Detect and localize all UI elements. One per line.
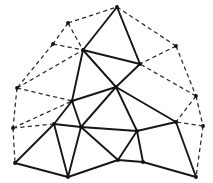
solid-edge-v-mid-lower-left-to-v-mid-lower-right	[81, 127, 137, 131]
dashed-edge-v-outer-right-low-to-v-bottom-right	[196, 126, 203, 177]
solid-edge-v-upper-left-to-v-upper-right	[83, 50, 140, 64]
dashed-edge-v-outer-left-low-to-v-left-lower	[13, 124, 54, 128]
dashed-edge-v-outer-left-mid-to-v-outer-left-low	[13, 88, 17, 128]
vertex-v-outer-left-mid	[15, 86, 19, 90]
vertex-v-mid-lower-right	[135, 129, 139, 133]
vertex-v-outer-left-low	[11, 126, 15, 130]
vertex-v-upper-left	[81, 48, 85, 52]
dashed-edge-v-outer-right-mid-to-v-upper-right	[140, 64, 196, 96]
dashed-edge-v-outer-left-low-to-v-bottom-left	[13, 128, 15, 163]
vertex-v-mid-lower-left	[79, 125, 83, 129]
vertex-v-mid-left	[70, 99, 74, 103]
vertex-v-bottom-left	[13, 161, 17, 165]
solid-edge-layer	[15, 7, 196, 177]
vertex-v-right-lower	[174, 120, 178, 124]
vertex-layer	[11, 5, 205, 179]
vertex-v-bottom-center	[116, 158, 120, 162]
vertex-v-outer-top-left	[66, 21, 70, 25]
solid-edge-v-apex-top-to-v-upper-left	[83, 7, 117, 50]
solid-edge-v-left-lower-to-v-mid-lower-left	[54, 124, 81, 127]
solid-edge-v-mid-lower-right-to-v-bottom-right-mid	[137, 131, 143, 162]
vertex-v-upper-right	[138, 62, 142, 66]
vertex-v-bottom-right-mid	[141, 160, 145, 164]
dashed-edge-v-outer-left-upper-to-v-upper-left	[53, 44, 83, 50]
solid-edge-v-apex-top-to-v-upper-right	[117, 7, 140, 64]
solid-edge-v-bottom-center-to-v-mid-lower-right	[118, 131, 137, 160]
solid-edge-v-left-lower-to-v-bottom-left-mid	[54, 124, 68, 177]
dashed-edge-v-outer-right-mid-to-v-outer-right-low	[196, 96, 203, 126]
dashed-edge-v-outer-left-upper-to-v-outer-left-mid	[17, 44, 53, 88]
solid-edge-v-bottom-left-to-v-bottom-left-mid	[15, 163, 68, 177]
dashed-edge-v-outer-right-mid-to-v-right-lower	[176, 96, 196, 122]
dashed-edge-v-outer-left-low-to-v-mid-left	[13, 101, 72, 128]
vertex-v-bottom-left-mid	[66, 175, 70, 179]
solid-edge-v-upper-left-to-v-center	[83, 50, 116, 87]
dashed-edge-v-outer-left-mid-to-v-mid-left	[17, 88, 72, 101]
vertex-v-apex-top	[115, 5, 119, 9]
mesh-diagram	[0, 0, 213, 183]
solid-edge-v-bottom-left-mid-to-v-bottom-center	[68, 160, 118, 177]
solid-edge-v-mid-lower-right-to-v-right-lower	[137, 122, 176, 131]
solid-edge-v-left-lower-to-v-bottom-left	[15, 124, 54, 163]
vertex-v-outer-top-right	[174, 44, 178, 48]
vertex-v-outer-left-upper	[51, 42, 55, 46]
vertex-v-bottom-right	[194, 175, 198, 179]
vertex-v-left-lower	[52, 122, 56, 126]
solid-edge-v-right-lower-to-v-bottom-right	[176, 122, 196, 177]
solid-edge-v-upper-left-to-v-mid-left	[72, 50, 83, 101]
solid-edge-v-mid-lower-left-to-v-bottom-center	[81, 127, 118, 160]
dashed-edge-v-outer-top-left-to-v-upper-left	[68, 23, 83, 50]
dashed-edge-v-outer-left-mid-to-v-upper-left	[17, 50, 83, 88]
dashed-edge-v-outer-top-left-to-v-outer-left-upper	[53, 23, 68, 44]
dashed-edge-v-outer-top-right-to-v-outer-right-mid	[176, 46, 196, 96]
solid-edge-v-bottom-center-to-v-bottom-right-mid	[118, 160, 143, 162]
solid-edge-v-bottom-right-mid-to-v-bottom-right	[143, 162, 196, 177]
solid-edge-v-mid-left-to-v-mid-lower-left	[72, 101, 81, 127]
solid-edge-v-upper-right-to-v-center	[116, 64, 140, 87]
dashed-edge-v-outer-top-right-to-v-upper-right	[140, 46, 176, 64]
vertex-v-outer-right-mid	[194, 94, 198, 98]
mesh-canvas	[0, 0, 213, 183]
vertex-v-center	[114, 85, 118, 89]
solid-edge-v-mid-lower-left-to-v-bottom-left-mid	[68, 127, 81, 177]
dashed-edge-v-outer-right-low-to-v-right-lower	[176, 122, 203, 126]
vertex-v-outer-right-low	[201, 124, 205, 128]
